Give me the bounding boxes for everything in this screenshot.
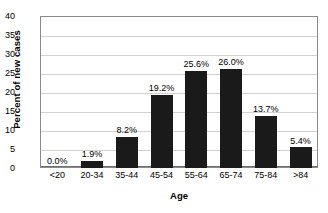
- bar-value-label: 13.7%: [253, 105, 279, 115]
- y-tick-label: 5: [0, 145, 15, 154]
- y-tick-label: 30: [0, 50, 15, 59]
- x-tick-label: 65-74: [214, 170, 249, 180]
- bar-slot: 0.0%: [40, 16, 75, 168]
- bar-value-label: 5.4%: [290, 137, 311, 147]
- x-tick-label: 20-34: [75, 170, 110, 180]
- bar[interactable]: 26.0%: [220, 69, 242, 168]
- bar-series: 0.0% 1.9% 8.2% 19.2% 25.6% 26.0%: [40, 16, 318, 168]
- bar[interactable]: 19.2%: [151, 95, 173, 168]
- y-tick-label: 35: [0, 31, 15, 40]
- x-tick-label: 35-44: [110, 170, 145, 180]
- bar-slot: 8.2%: [110, 16, 145, 168]
- x-axis-title: Age: [40, 190, 318, 201]
- bar-slot: 19.2%: [144, 16, 179, 168]
- bar-value-label: 0.0%: [47, 157, 68, 167]
- bar-value-label: 8.2%: [117, 126, 138, 136]
- bar[interactable]: 13.7%: [255, 116, 277, 168]
- x-tick-label: 55-64: [179, 170, 214, 180]
- bar[interactable]: 8.2%: [116, 137, 138, 168]
- bar[interactable]: 5.4%: [290, 147, 312, 168]
- bar-value-label: 19.2%: [149, 84, 175, 94]
- x-tick-label: <20: [40, 170, 75, 180]
- y-tick-label: 15: [0, 107, 15, 116]
- x-axis-tick-labels: <20 20-34 35-44 45-54 55-64 65-74 75-84 …: [40, 170, 318, 180]
- bar-slot: 13.7%: [249, 16, 284, 168]
- x-tick-label: >84: [283, 170, 318, 180]
- bar-slot: 1.9%: [75, 16, 110, 168]
- x-tick-label: 75-84: [249, 170, 284, 180]
- y-axis-title: Percent of new cases: [11, 0, 22, 160]
- bar-value-label: 1.9%: [82, 150, 103, 160]
- bar[interactable]: 25.6%: [185, 71, 207, 168]
- y-tick-label: 40: [0, 12, 15, 21]
- bar-value-label: 26.0%: [218, 58, 244, 68]
- y-tick-label: 25: [0, 69, 15, 78]
- x-tick-label: 45-54: [144, 170, 179, 180]
- y-tick-label: 20: [0, 88, 15, 97]
- y-tick-label: 0: [0, 164, 15, 173]
- bar-slot: 26.0%: [214, 16, 249, 168]
- bar-slot: 25.6%: [179, 16, 214, 168]
- y-tick-label: 10: [0, 126, 15, 135]
- bar-slot: 5.4%: [283, 16, 318, 168]
- bar-value-label: 25.6%: [184, 60, 210, 70]
- bar[interactable]: 1.9%: [81, 161, 103, 168]
- bar-chart: Percent of new cases 40 35 30 25 20 15 1…: [0, 0, 328, 213]
